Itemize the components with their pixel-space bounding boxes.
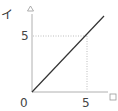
y-tick-5: 5 <box>21 30 29 42</box>
data-line <box>32 16 104 92</box>
origin-label: 0 <box>20 97 28 109</box>
triangle-icon <box>28 6 34 11</box>
figure-label: イ <box>1 9 13 21</box>
proportional-line-chart <box>0 0 118 111</box>
x-tick-5: 5 <box>82 97 90 109</box>
square-icon <box>110 94 116 100</box>
